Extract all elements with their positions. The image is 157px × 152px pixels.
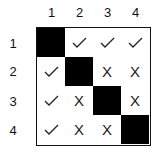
matrix-cell-3-3 (93, 86, 121, 115)
check-icon (72, 35, 87, 50)
row-label: 3 (6, 94, 20, 109)
row-label: 4 (6, 123, 20, 138)
matrix-cell-4-4 (121, 115, 149, 144)
check-icon (44, 93, 59, 108)
matrix-cell-3-2: X (65, 86, 93, 115)
matrix-cell-2-2 (65, 57, 93, 86)
check-icon (44, 64, 59, 79)
matrix-cell-4-3: X (93, 115, 121, 144)
x-icon: X (74, 122, 84, 137)
column-label: 3 (93, 5, 122, 20)
matrix-cell-1-2 (65, 28, 93, 57)
matrix-cell-2-1 (37, 57, 65, 86)
row-label: 1 (6, 36, 20, 51)
matrix-cell-2-3: X (93, 57, 121, 86)
column-label: 4 (121, 5, 150, 20)
column-label: 1 (37, 5, 66, 20)
x-icon: X (130, 64, 140, 79)
check-icon (100, 35, 115, 50)
matrix-cell-1-4 (121, 28, 149, 57)
check-icon (128, 35, 143, 50)
x-icon: X (74, 93, 84, 108)
x-icon: X (102, 64, 112, 79)
matrix-cell-1-3 (93, 28, 121, 57)
matrix-cell-3-1 (37, 86, 65, 115)
matrix-cell-2-4: X (121, 57, 149, 86)
column-label: 2 (65, 5, 94, 20)
matrix-cell-1-1 (37, 28, 65, 57)
matrix-cell-4-1 (37, 115, 65, 144)
row-label: 2 (6, 64, 20, 79)
matrix-cell-4-2: X (65, 115, 93, 144)
comparison-matrix: XXXXXX (36, 27, 151, 146)
matrix-cell-3-4: X (121, 86, 149, 115)
x-icon: X (130, 93, 140, 108)
check-icon (44, 122, 59, 137)
x-icon: X (102, 122, 112, 137)
